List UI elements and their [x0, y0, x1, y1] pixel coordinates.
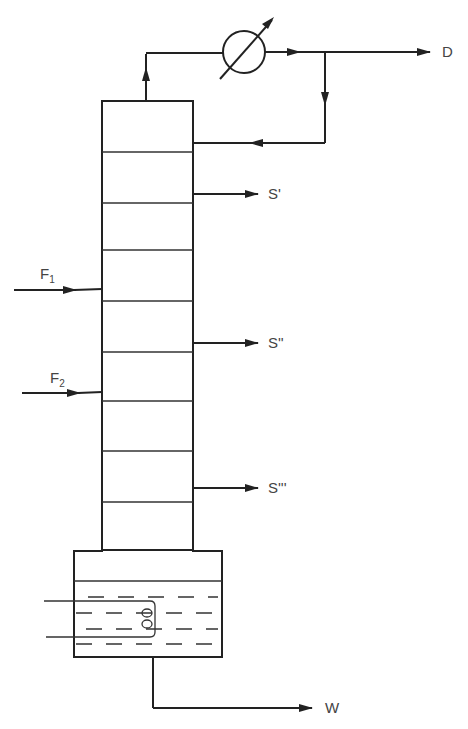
condenser-icon: [220, 17, 274, 79]
overhead-vapor-line: [146, 53, 223, 101]
trays: [102, 152, 193, 502]
side-stream-3-label: S''': [268, 480, 287, 495]
side-stream-2-label: S'': [268, 335, 284, 350]
bottoms-line: [153, 657, 312, 708]
distillation-diagram: [0, 0, 468, 729]
distillate-label: D: [442, 44, 453, 59]
column: [102, 101, 193, 550]
feed-2-label: F2: [50, 370, 65, 389]
reboiler: [74, 550, 222, 657]
feed-1-label: F1: [40, 266, 55, 285]
bottoms-label: W: [325, 700, 339, 715]
side-stream-1-label: S': [268, 186, 281, 201]
heating-coil-icon: [44, 601, 155, 637]
